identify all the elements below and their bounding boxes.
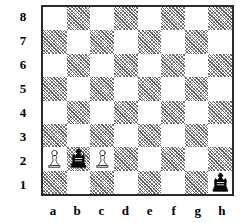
- rank-labels: 8 7 6 5 4 3 2 1: [10, 5, 36, 196]
- square-a8[interactable]: [43, 7, 67, 30]
- square-f1[interactable]: [161, 171, 185, 194]
- rank-label-5: 5: [10, 77, 36, 101]
- square-d8[interactable]: [114, 7, 138, 30]
- file-label-h: h: [210, 200, 234, 220]
- rank-label-1: 1: [10, 172, 36, 196]
- square-b5[interactable]: [67, 77, 91, 100]
- square-c1[interactable]: [90, 171, 114, 194]
- file-label-e: e: [138, 200, 162, 220]
- square-b1[interactable]: [67, 171, 91, 194]
- square-e2[interactable]: [138, 147, 162, 170]
- square-c6[interactable]: [90, 54, 114, 77]
- square-e5[interactable]: [138, 77, 162, 100]
- square-e3[interactable]: [138, 124, 162, 147]
- square-g4[interactable]: [185, 101, 209, 124]
- square-c8[interactable]: [90, 7, 114, 30]
- square-h7[interactable]: [208, 30, 232, 53]
- square-a4[interactable]: [43, 101, 67, 124]
- file-label-c: c: [89, 200, 113, 220]
- square-b2[interactable]: [67, 147, 91, 170]
- file-label-a: a: [41, 200, 65, 220]
- rank-label-3: 3: [10, 124, 36, 148]
- square-a5[interactable]: [43, 77, 67, 100]
- white-pawn-icon: [90, 147, 114, 170]
- square-a6[interactable]: [43, 54, 67, 77]
- square-b3[interactable]: [67, 124, 91, 147]
- square-e6[interactable]: [138, 54, 162, 77]
- square-g7[interactable]: [185, 30, 209, 53]
- square-a1[interactable]: [43, 171, 67, 194]
- square-h5[interactable]: [208, 77, 232, 100]
- square-c4[interactable]: [90, 101, 114, 124]
- square-f3[interactable]: [161, 124, 185, 147]
- black-king-icon: [208, 171, 232, 194]
- square-a7[interactable]: [43, 30, 67, 53]
- square-c5[interactable]: [90, 77, 114, 100]
- square-c7[interactable]: [90, 30, 114, 53]
- square-h2[interactable]: [208, 147, 232, 170]
- square-a3[interactable]: [43, 124, 67, 147]
- square-d3[interactable]: [114, 124, 138, 147]
- square-f8[interactable]: [161, 7, 185, 30]
- square-h4[interactable]: [208, 101, 232, 124]
- square-a2[interactable]: [43, 147, 67, 170]
- file-label-d: d: [113, 200, 137, 220]
- square-b7[interactable]: [67, 30, 91, 53]
- rank-label-7: 7: [10, 29, 36, 53]
- file-labels: a b c d e f g h: [41, 200, 234, 220]
- rank-label-4: 4: [10, 101, 36, 125]
- square-h6[interactable]: [208, 54, 232, 77]
- rank-label-2: 2: [10, 148, 36, 172]
- white-pawn-icon: [43, 147, 67, 170]
- square-f7[interactable]: [161, 30, 185, 53]
- square-d4[interactable]: [114, 101, 138, 124]
- file-label-f: f: [162, 200, 186, 220]
- square-c3[interactable]: [90, 124, 114, 147]
- square-d1[interactable]: [114, 171, 138, 194]
- chessboard[interactable]: [41, 5, 234, 196]
- square-e4[interactable]: [138, 101, 162, 124]
- square-d6[interactable]: [114, 54, 138, 77]
- square-b4[interactable]: [67, 101, 91, 124]
- board-grid: [43, 7, 232, 194]
- square-f5[interactable]: [161, 77, 185, 100]
- square-b6[interactable]: [67, 54, 91, 77]
- square-g8[interactable]: [185, 7, 209, 30]
- square-f6[interactable]: [161, 54, 185, 77]
- chess-diagram: 8 7 6 5 4 3 2 1 a b c d e f g h: [0, 0, 243, 223]
- square-g5[interactable]: [185, 77, 209, 100]
- square-c2[interactable]: [90, 147, 114, 170]
- square-h3[interactable]: [208, 124, 232, 147]
- square-e1[interactable]: [138, 171, 162, 194]
- file-label-g: g: [186, 200, 210, 220]
- square-g6[interactable]: [185, 54, 209, 77]
- square-g1[interactable]: [185, 171, 209, 194]
- square-g3[interactable]: [185, 124, 209, 147]
- square-g2[interactable]: [185, 147, 209, 170]
- square-h8[interactable]: [208, 7, 232, 30]
- rank-label-8: 8: [10, 5, 36, 29]
- square-f2[interactable]: [161, 147, 185, 170]
- rank-label-6: 6: [10, 53, 36, 77]
- black-king-icon: [67, 147, 91, 170]
- file-label-b: b: [65, 200, 89, 220]
- square-f4[interactable]: [161, 101, 185, 124]
- square-b8[interactable]: [67, 7, 91, 30]
- square-d5[interactable]: [114, 77, 138, 100]
- square-d2[interactable]: [114, 147, 138, 170]
- square-d7[interactable]: [114, 30, 138, 53]
- square-h1[interactable]: [208, 171, 232, 194]
- square-e7[interactable]: [138, 30, 162, 53]
- square-e8[interactable]: [138, 7, 162, 30]
